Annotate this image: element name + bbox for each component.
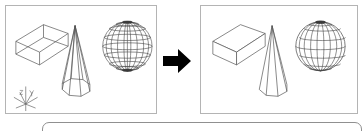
wireframe-viewport: Wireframe: [5, 5, 157, 114]
hidden-line-sphere: [296, 21, 346, 71]
hidden-line-drawing: [201, 6, 357, 113]
rounded-panel: [42, 122, 362, 131]
ucs-axis-icon: [14, 86, 38, 111]
wireframe-box: [16, 25, 68, 65]
hidden-line-viewport: Hidden: [200, 5, 358, 114]
wireframe-drawing: [6, 6, 156, 113]
wireframe-sphere: [103, 21, 152, 71]
transform-arrow: transforms to: [162, 48, 192, 74]
wireframe-cone: [62, 26, 90, 97]
figure-stage: Wireframe: [0, 0, 364, 131]
hidden-line-box: [213, 25, 265, 65]
